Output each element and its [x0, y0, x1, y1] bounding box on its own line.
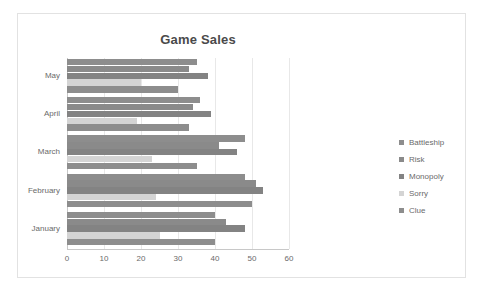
legend-item[interactable]: Monopoly — [399, 168, 479, 185]
bar[interactable] — [67, 225, 245, 231]
bar[interactable] — [67, 239, 215, 245]
bar[interactable] — [67, 232, 160, 238]
gridline-60 — [289, 58, 290, 249]
legend-label: Battleship — [409, 138, 444, 147]
bar[interactable] — [67, 219, 226, 225]
legend-swatch-icon — [399, 208, 404, 213]
legend-label: Risk — [409, 155, 425, 164]
x-axis-line — [67, 249, 289, 250]
bar-row — [67, 219, 289, 225]
bar[interactable] — [67, 104, 193, 110]
chart-legend: BattleshipRiskMonopolySorryClue — [399, 134, 479, 219]
bar[interactable] — [67, 212, 215, 218]
legend-label: Sorry — [409, 189, 428, 198]
bar-row — [67, 180, 289, 186]
legend-item[interactable]: Clue — [399, 202, 479, 219]
bar-row — [67, 163, 289, 169]
legend-label: Monopoly — [409, 172, 444, 181]
bar-row — [67, 212, 289, 218]
bar[interactable] — [67, 66, 189, 72]
category-label: March — [0, 147, 60, 156]
bar[interactable] — [67, 79, 141, 85]
category-label: January — [0, 224, 60, 233]
bar[interactable] — [67, 201, 252, 207]
bar[interactable] — [67, 118, 137, 124]
bar-group: April — [67, 96, 289, 134]
bar[interactable] — [67, 124, 189, 130]
plot-area: MayAprilMarchFebruaryJanuary 01020304050… — [67, 58, 289, 249]
bar[interactable] — [67, 111, 211, 117]
x-tick-label: 10 — [92, 254, 116, 263]
bar[interactable] — [67, 97, 200, 103]
category-label: May — [0, 71, 60, 80]
bar[interactable] — [67, 59, 197, 65]
legend-swatch-icon — [399, 157, 404, 162]
legend-item[interactable]: Battleship — [399, 134, 479, 151]
x-tick-label: 40 — [203, 254, 227, 263]
chart-title: Game Sales — [18, 32, 378, 47]
bar-row — [67, 97, 289, 103]
bar[interactable] — [67, 156, 152, 162]
bar[interactable] — [67, 180, 256, 186]
bar-row — [67, 142, 289, 148]
bar-row — [67, 111, 289, 117]
bar-row — [67, 174, 289, 180]
bar[interactable] — [67, 194, 156, 200]
bar-group: May — [67, 58, 289, 96]
bar-group: February — [67, 173, 289, 211]
bar-row — [67, 118, 289, 124]
bar-row — [67, 149, 289, 155]
x-tick-label: 50 — [240, 254, 264, 263]
bar[interactable] — [67, 163, 197, 169]
bar[interactable] — [67, 86, 178, 92]
bar-row — [67, 79, 289, 85]
x-tick-label: 60 — [277, 254, 301, 263]
bar[interactable] — [67, 142, 219, 148]
bar-row — [67, 225, 289, 231]
bar-row — [67, 187, 289, 193]
bar[interactable] — [67, 135, 245, 141]
legend-swatch-icon — [399, 140, 404, 145]
bar-group: January — [67, 211, 289, 249]
legend-swatch-icon — [399, 191, 404, 196]
bar-row — [67, 194, 289, 200]
bar-row — [67, 232, 289, 238]
bar[interactable] — [67, 174, 245, 180]
bar-row — [67, 135, 289, 141]
bar-row — [67, 86, 289, 92]
legend-label: Clue — [409, 206, 425, 215]
bar[interactable] — [67, 149, 237, 155]
x-tick-label: 30 — [166, 254, 190, 263]
legend-swatch-icon — [399, 174, 404, 179]
bar-row — [67, 59, 289, 65]
category-label: February — [0, 186, 60, 195]
category-label: April — [0, 109, 60, 118]
x-tick-label: 20 — [129, 254, 153, 263]
legend-item[interactable]: Risk — [399, 151, 479, 168]
chart-container: Game Sales MayAprilMarchFebruaryJanuary … — [17, 13, 466, 278]
bar-group: March — [67, 134, 289, 172]
bar[interactable] — [67, 187, 263, 193]
bar-row — [67, 124, 289, 130]
bar-row — [67, 156, 289, 162]
bar-row — [67, 73, 289, 79]
bar-row — [67, 66, 289, 72]
bar-row — [67, 201, 289, 207]
x-tick-label: 0 — [55, 254, 79, 263]
bar-row — [67, 239, 289, 245]
legend-item[interactable]: Sorry — [399, 185, 479, 202]
bar-row — [67, 104, 289, 110]
bar[interactable] — [67, 73, 208, 79]
